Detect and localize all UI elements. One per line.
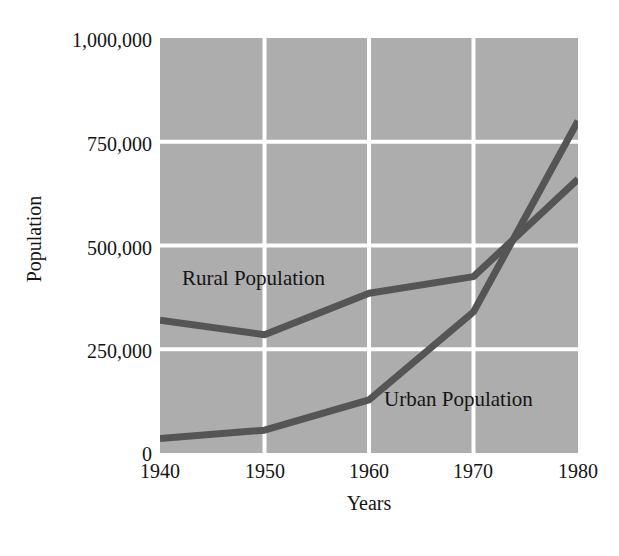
x-axis-title: Years xyxy=(289,492,449,514)
y-axis-tick-250000: 250,000 xyxy=(8,341,152,361)
population-line-chart: 1,000,000 750,000 500,000 250,000 0 Popu… xyxy=(0,0,619,556)
series-label-rural: Rural Population xyxy=(182,267,325,290)
series-label-urban: Urban Population xyxy=(384,388,533,411)
x-axis-tick-1970: 1970 xyxy=(428,460,518,482)
x-axis-tick-1940: 1940 xyxy=(115,460,205,482)
plot-area: Rural Population Urban Population xyxy=(160,38,578,453)
x-axis-tick-1960: 1960 xyxy=(324,460,414,482)
y-axis-title: Population xyxy=(23,139,45,339)
x-axis-tick-1950: 1950 xyxy=(220,460,310,482)
y-axis-tick-1000000: 1,000,000 xyxy=(8,30,152,50)
x-axis-tick-1980: 1980 xyxy=(533,460,619,482)
